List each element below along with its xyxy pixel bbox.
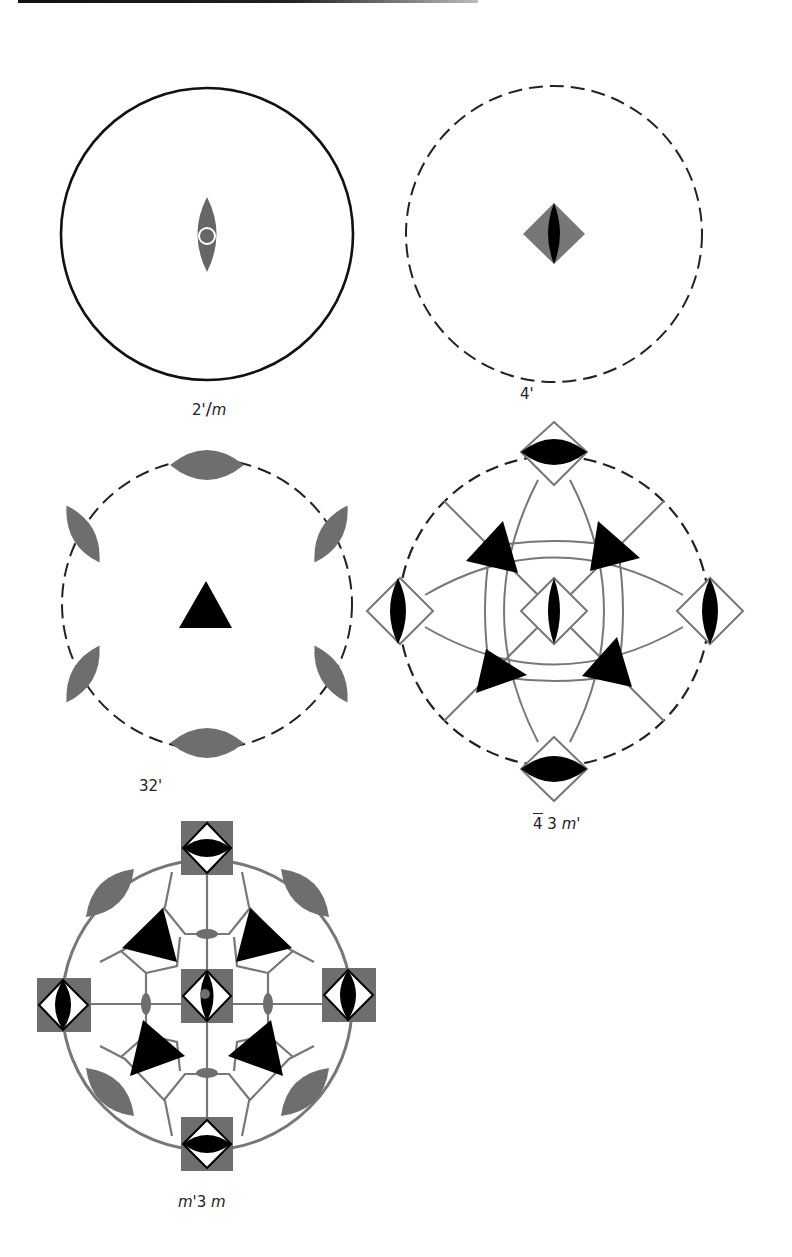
black-triangle-icon [179, 581, 232, 628]
panel-4bar-3-mprime [367, 422, 743, 801]
label-4bar-3-mprime: 4 3 m' [533, 815, 580, 833]
panel-mprime-3-m [37, 821, 376, 1171]
label-4prime: 4' [520, 385, 534, 403]
black-lens-set [390, 439, 718, 782]
label-32prime: 32' [139, 777, 162, 795]
stereogram-figure [0, 0, 792, 1257]
label-mprime-3-m: m'3 m [178, 1193, 226, 1211]
grey-dot-icon [200, 989, 210, 999]
panel-2prime-over-m [61, 88, 353, 380]
panel-4prime [406, 86, 702, 382]
grey-lens-icon [198, 197, 217, 272]
label-2prime-over-m: 2'/m [192, 398, 226, 419]
panel-32prime [57, 450, 357, 758]
